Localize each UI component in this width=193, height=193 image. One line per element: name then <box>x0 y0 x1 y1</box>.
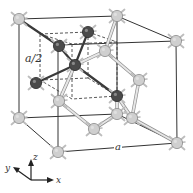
z-axis-label: z <box>32 152 38 162</box>
dashed-edge <box>72 96 117 99</box>
dashed-edge <box>40 32 88 34</box>
dark-atom <box>29 77 45 90</box>
cube-edge <box>117 16 176 41</box>
light-bond <box>132 118 177 143</box>
light-atom <box>125 112 141 125</box>
dark-atom <box>110 90 126 103</box>
light-atom <box>110 108 126 121</box>
light-atom <box>98 45 114 58</box>
light-atom <box>12 13 28 26</box>
crystal-structure-svg: a/2 a z x y <box>0 0 193 193</box>
dark-atom <box>68 59 84 72</box>
half-lattice-label: a/2 <box>25 52 42 65</box>
light-atom <box>110 10 126 23</box>
light-atom <box>51 146 67 159</box>
light-atom <box>52 95 68 108</box>
cube-edge <box>19 114 117 118</box>
x-axis-label: x <box>56 175 61 185</box>
dark-atom <box>52 40 68 53</box>
light-atom <box>12 112 28 125</box>
x-arrow-icon <box>47 177 54 183</box>
dark-atom <box>81 26 97 39</box>
light-atom <box>170 137 186 150</box>
light-atom <box>169 35 185 48</box>
light-atom <box>87 123 103 136</box>
diamond-cubic-diagram: a/2 a z x y <box>0 0 193 193</box>
y-axis-label: y <box>4 163 11 173</box>
light-atom <box>132 74 148 87</box>
lattice-constant-label: a <box>115 141 121 152</box>
cube-edge <box>176 41 177 143</box>
cube-edge <box>19 16 117 19</box>
